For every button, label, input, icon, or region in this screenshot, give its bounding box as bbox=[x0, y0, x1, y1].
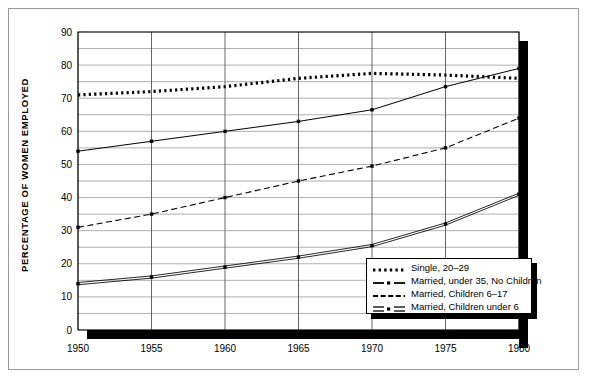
chart-plot: 0102030405060708090 19501955196019651970… bbox=[0, 0, 589, 380]
svg-text:20: 20 bbox=[61, 258, 73, 269]
svg-text:1980: 1980 bbox=[508, 343, 531, 354]
legend-key-dashed-icon bbox=[372, 288, 406, 300]
svg-text:50: 50 bbox=[61, 159, 73, 170]
legend-item-label: Single, 20–29 bbox=[411, 262, 469, 274]
legend-key-double-dot-icon bbox=[372, 301, 406, 313]
legend-item: Single, 20–29 bbox=[372, 261, 531, 274]
svg-text:30: 30 bbox=[61, 225, 73, 236]
svg-text:40: 40 bbox=[61, 192, 73, 203]
legend-item: Married, under 35, No Children bbox=[372, 274, 531, 287]
svg-text:1960: 1960 bbox=[214, 343, 237, 354]
legend-key-dash-dot-icon bbox=[372, 275, 406, 287]
svg-text:70: 70 bbox=[61, 93, 73, 104]
svg-text:1965: 1965 bbox=[287, 343, 310, 354]
svg-text:1970: 1970 bbox=[361, 343, 384, 354]
legend-item: Married, Children 6–17 bbox=[372, 287, 531, 300]
legend-key-dotted-icon bbox=[372, 262, 406, 274]
svg-text:10: 10 bbox=[61, 291, 73, 302]
legend-item: Married, Children under 6 bbox=[372, 300, 531, 313]
x-tick-labels: 1950195519601965197019751980 bbox=[67, 343, 531, 354]
legend-item-label: Married, Children under 6 bbox=[411, 301, 519, 313]
chart-legend: Single, 20–29 Married, under 35, No Chil… bbox=[366, 258, 532, 314]
svg-text:1975: 1975 bbox=[434, 343, 457, 354]
chart-area: PERCENTAGE OF WOMEN EMPLOYED 01020304050… bbox=[0, 0, 589, 380]
svg-text:80: 80 bbox=[61, 60, 73, 71]
svg-text:1950: 1950 bbox=[67, 343, 90, 354]
legend-item-label: Married, Children 6–17 bbox=[411, 288, 508, 300]
legend-item-label: Married, under 35, No Children bbox=[411, 275, 541, 287]
svg-text:60: 60 bbox=[61, 126, 73, 137]
svg-text:0: 0 bbox=[66, 325, 72, 336]
svg-text:1955: 1955 bbox=[140, 343, 163, 354]
svg-text:90: 90 bbox=[61, 27, 73, 38]
y-tick-labels: 0102030405060708090 bbox=[61, 27, 73, 336]
